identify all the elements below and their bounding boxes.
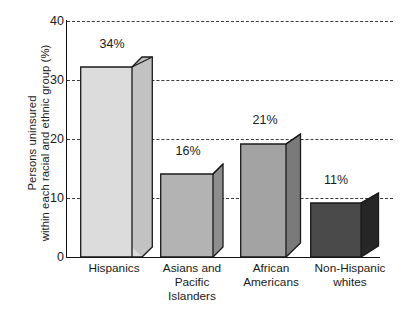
y-tick-label-30: 30 [38, 74, 64, 87]
bar-value-asians-pacific-islanders: 16% [156, 145, 220, 158]
y-axis-line [66, 20, 67, 258]
y-tick-label-20: 20 [38, 133, 64, 146]
chart-container: Persons uninsured within each racial and… [0, 0, 402, 315]
x-tick-label-non-hispanic-whites: Non-Hispanic whites [302, 261, 398, 289]
x-tick-label-asians-pacific-islanders: Asians and Pacific Islanders [146, 261, 238, 303]
bar-non-hispanic-whites[interactable] [310, 192, 380, 315]
y-axis-tick-labels: 40 30 20 10 0 [38, 0, 64, 315]
y-tick-label-10: 10 [38, 192, 64, 205]
y-tick-label-0: 0 [38, 251, 64, 264]
bar-value-non-hispanic-whites: 11% [305, 174, 367, 187]
gridline-40 [67, 21, 393, 22]
bar-african-americans-shape [240, 133, 302, 258]
y-axis-title-line-1: Persons uninsured [26, 95, 39, 190]
y-tick-label-40: 40 [38, 15, 64, 28]
bar-hispanics[interactable] [80, 56, 153, 315]
bar-hispanics-shape [80, 56, 153, 258]
bar-value-hispanics: 34% [76, 38, 148, 51]
bar-asians-pacific-islanders-shape [160, 163, 224, 258]
bar-value-african-americans: 21% [234, 114, 296, 127]
bar-non-hispanic-whites-shape [310, 192, 380, 258]
